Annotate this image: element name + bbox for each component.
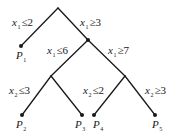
node-p5 xyxy=(153,113,157,117)
branch-label-x1-ge-7: x1≥7 xyxy=(108,45,129,56)
branch-label-x1-le-6: x1≤6 xyxy=(47,45,68,56)
branch-label-x2-le-3: x2≤3 xyxy=(9,85,30,96)
leaf-label-p1: P1 xyxy=(16,50,26,61)
edge-n2-p3 xyxy=(51,76,82,115)
node-n1 xyxy=(86,38,90,42)
branch-label-x1-ge-3: x1≥3 xyxy=(80,17,101,28)
node-p3 xyxy=(80,113,84,117)
node-p1 xyxy=(19,44,23,48)
node-p4 xyxy=(92,113,96,117)
leaf-label-p3: P3 xyxy=(75,119,85,130)
branch-label-x1-le-2: x1≤2 xyxy=(12,17,33,28)
leaf-label-p5: P5 xyxy=(152,119,162,130)
node-p2 xyxy=(20,113,24,117)
branch-label-x2-ge-3: x2≥3 xyxy=(145,85,166,96)
branch-label-x2-le-2: x2≤2 xyxy=(83,85,104,96)
leaf-label-p4: P4 xyxy=(93,119,103,130)
leaf-label-p2: P2 xyxy=(16,119,26,130)
